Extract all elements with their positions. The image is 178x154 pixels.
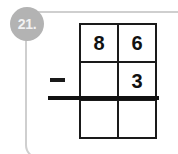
cell-minuend-tens[interactable]: 8 [81, 25, 119, 63]
cell-difference-tens[interactable] [81, 101, 119, 139]
answer-rule-line [48, 96, 159, 100]
minus-sign-icon [50, 78, 65, 82]
place-value-grid: 8 6 3 [79, 23, 157, 139]
question-number-badge: 21. [10, 7, 44, 41]
question-number-label: 21. [18, 17, 36, 31]
cell-difference-ones[interactable] [119, 101, 157, 139]
cell-minuend-ones[interactable]: 6 [119, 25, 157, 63]
